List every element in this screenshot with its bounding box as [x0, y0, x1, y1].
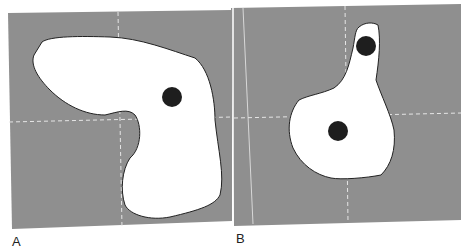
panel-b [231, 0, 461, 232]
panel-a-figure [0, 0, 232, 232]
panel-a [0, 0, 232, 232]
dot-b-top [356, 36, 376, 56]
dot-a [162, 87, 182, 107]
panel-b-figure [231, 0, 461, 232]
panel-a-label: A [12, 234, 21, 249]
panel-b-label: B [236, 231, 245, 246]
dot-b-center [328, 121, 348, 141]
